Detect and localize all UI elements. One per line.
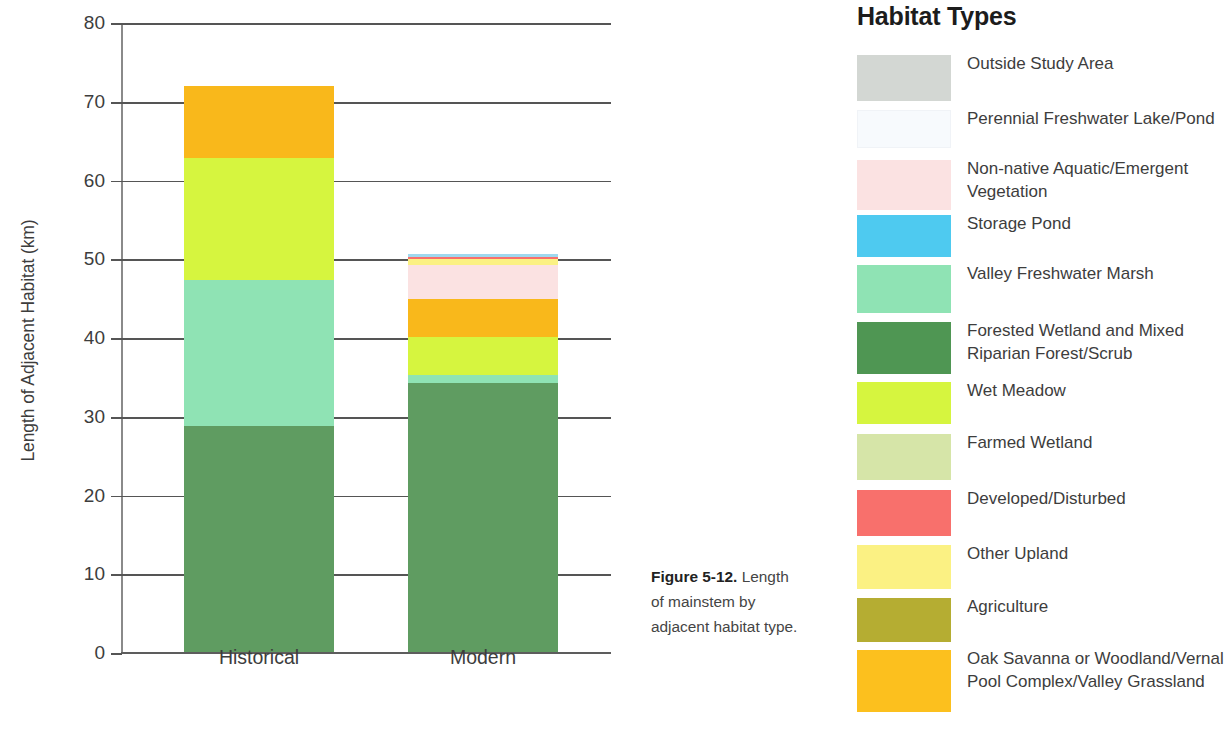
- legend-item[interactable]: Oak Savanna or Woodland/Vernal Pool Comp…: [857, 650, 1227, 712]
- legend-color-swatch: [857, 598, 951, 642]
- gridline: [121, 23, 611, 25]
- y-axis-tick: [111, 496, 122, 498]
- y-axis-tick-label: 50: [84, 249, 105, 271]
- bar-segment: [408, 382, 558, 652]
- legend-color-swatch: [857, 215, 951, 257]
- figure-caption: Figure 5-12. Length of mainstem by adjac…: [651, 565, 801, 640]
- bar-segment: [408, 375, 558, 383]
- y-axis-tick: [111, 653, 122, 655]
- y-axis-tick: [111, 574, 122, 576]
- bar-segment: [184, 157, 334, 280]
- y-axis-tick-label: 60: [84, 170, 105, 192]
- y-axis-tick: [111, 102, 122, 104]
- legend: Habitat Types Outside Study AreaPerennia…: [852, 0, 1227, 730]
- legend-item-label: Developed/Disturbed: [967, 488, 1227, 511]
- y-axis-tick: [111, 23, 122, 25]
- bar-segment: [408, 298, 558, 337]
- y-axis-tick-label: 0: [94, 642, 105, 664]
- legend-color-swatch: [857, 490, 951, 536]
- bar-historical: [184, 87, 334, 652]
- legend-item[interactable]: Non-native Aquatic/Emergent Vegetation: [857, 160, 1227, 210]
- legend-item-label: Storage Pond: [967, 213, 1227, 236]
- y-axis-tick: [111, 181, 122, 183]
- y-axis-title: Length of Adjacent Habitat (km): [18, 131, 39, 551]
- bar-modern: [408, 255, 558, 653]
- legend-item[interactable]: Perennial Freshwater Lake/Pond: [857, 110, 1227, 148]
- legend-item[interactable]: Outside Study Area: [857, 55, 1227, 101]
- bar-segment: [408, 337, 558, 375]
- y-axis-tick-label: 80: [84, 12, 105, 34]
- legend-color-swatch: [857, 382, 951, 424]
- legend-item[interactable]: Storage Pond: [857, 215, 1227, 257]
- legend-item[interactable]: Developed/Disturbed: [857, 490, 1227, 536]
- legend-color-swatch: [857, 322, 951, 374]
- stacked-bar-chart: Length of Adjacent Habitat (km) 01020304…: [0, 0, 850, 730]
- figure-number: Figure 5-12.: [651, 568, 737, 585]
- y-axis-tick-label: 20: [84, 485, 105, 507]
- legend-item[interactable]: Other Upland: [857, 545, 1227, 589]
- bar-segment: [184, 86, 334, 157]
- legend-item-label: Wet Meadow: [967, 380, 1227, 403]
- legend-color-swatch: [857, 434, 951, 480]
- y-axis-tick: [111, 338, 122, 340]
- legend-color-swatch: [857, 160, 951, 210]
- plot-area: 01020304050607080: [121, 24, 611, 654]
- bar-segment: [184, 426, 334, 653]
- legend-color-swatch: [857, 650, 951, 712]
- legend-item[interactable]: Wet Meadow: [857, 382, 1227, 424]
- legend-item[interactable]: Agriculture: [857, 598, 1227, 642]
- bar-segment: [408, 264, 558, 298]
- legend-item-label: Oak Savanna or Woodland/Vernal Pool Comp…: [967, 648, 1227, 693]
- figure-container: Length of Adjacent Habitat (km) 01020304…: [0, 0, 1227, 730]
- legend-item-label: Farmed Wetland: [967, 432, 1227, 455]
- y-axis-tick-label: 70: [84, 91, 105, 113]
- y-axis-tick: [111, 259, 122, 261]
- bar-segment: [184, 279, 334, 426]
- legend-color-swatch: [857, 55, 951, 101]
- legend-color-swatch: [857, 265, 951, 313]
- y-axis-tick-label: 30: [84, 406, 105, 428]
- legend-item-label: Outside Study Area: [967, 53, 1227, 76]
- legend-item[interactable]: Valley Freshwater Marsh: [857, 265, 1227, 313]
- x-axis-label-historical: Historical: [149, 646, 369, 669]
- legend-color-swatch: [857, 545, 951, 589]
- legend-item-label: Perennial Freshwater Lake/Pond: [967, 108, 1227, 131]
- legend-color-swatch: [857, 110, 951, 148]
- legend-item-label: Forested Wetland and Mixed Riparian Fore…: [967, 320, 1227, 365]
- y-axis-tick-label: 40: [84, 327, 105, 349]
- legend-item[interactable]: Forested Wetland and Mixed Riparian Fore…: [857, 322, 1227, 374]
- y-axis-tick: [111, 417, 122, 419]
- legend-item-label: Non-native Aquatic/Emergent Vegetation: [967, 158, 1227, 203]
- legend-item-label: Other Upland: [967, 543, 1227, 566]
- x-axis-label-modern: Modern: [373, 646, 593, 669]
- y-axis-tick-label: 10: [84, 564, 105, 586]
- legend-item-label: Agriculture: [967, 596, 1227, 619]
- legend-item-label: Valley Freshwater Marsh: [967, 263, 1227, 286]
- bar-segment: [408, 254, 558, 257]
- legend-title: Habitat Types: [857, 2, 1016, 31]
- bar-segment: [408, 259, 558, 265]
- legend-item[interactable]: Farmed Wetland: [857, 434, 1227, 480]
